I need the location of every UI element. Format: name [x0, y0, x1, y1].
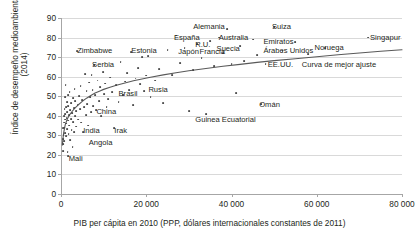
- data-point: [154, 80, 156, 82]
- data-point: [226, 28, 228, 30]
- data-point: [171, 74, 173, 76]
- data-point: [66, 101, 68, 103]
- data-point: [65, 135, 67, 137]
- data-point: [150, 96, 152, 98]
- data-point: [87, 103, 89, 105]
- country-label: India: [83, 127, 99, 136]
- country-label: Francia: [200, 48, 225, 57]
- data-point: [66, 117, 68, 119]
- y-tick-label: 0: [51, 189, 56, 199]
- environmental-performance-scatter-chart: Índice de desempeño medioambiental (2014…: [0, 0, 419, 239]
- data-point: [74, 115, 76, 117]
- data-point: [68, 133, 70, 135]
- y-tick-label: 20: [47, 150, 56, 160]
- data-point: [62, 150, 64, 152]
- country-label: EE.UU.: [268, 61, 293, 70]
- country-label: Australia: [219, 34, 249, 43]
- data-point: [256, 54, 258, 56]
- country-label: Brasil: [119, 90, 138, 99]
- data-point: [235, 92, 237, 94]
- data-point: [265, 63, 267, 65]
- y-tick-label: 90: [47, 13, 56, 23]
- country-label: Singapur: [370, 34, 400, 43]
- x-tick-mark: [402, 194, 403, 197]
- data-point: [69, 91, 71, 93]
- data-point: [89, 96, 91, 98]
- data-point: [81, 122, 83, 124]
- y-tick-label: 30: [47, 130, 56, 140]
- data-point: [102, 71, 104, 73]
- data-point: [162, 102, 164, 104]
- data-point: [91, 74, 93, 76]
- data-point: [367, 37, 369, 39]
- data-point: [143, 90, 145, 92]
- x-tick-label: 80 000: [389, 199, 414, 209]
- data-point: [81, 99, 83, 101]
- data-point: [118, 101, 120, 103]
- data-point: [141, 56, 143, 58]
- y-tick-label: 60: [47, 72, 56, 82]
- data-point: [75, 100, 77, 102]
- data-point: [65, 123, 67, 125]
- data-point: [111, 91, 113, 93]
- data-point: [103, 93, 105, 95]
- data-point: [68, 125, 70, 127]
- x-axis-title: PIB per cápita en 2010 (PPP, dólares int…: [0, 218, 419, 228]
- y-tick-label: 10: [47, 169, 56, 179]
- data-point: [137, 67, 139, 69]
- y-tick-label: 40: [47, 111, 56, 121]
- data-point: [252, 39, 254, 41]
- data-point: [77, 119, 79, 121]
- data-point: [109, 77, 111, 79]
- x-tick-mark: [317, 194, 318, 197]
- data-point: [133, 104, 135, 106]
- x-tick-mark: [146, 194, 147, 197]
- data-point: [167, 49, 169, 51]
- country-label: Serbia: [92, 61, 114, 70]
- data-point: [72, 146, 74, 148]
- x-tick-label: 60 000: [304, 199, 329, 209]
- plot-area: 0102030405060708090 020 00040 00060 0008…: [61, 18, 402, 194]
- country-label: Curva de mejor ajuste: [302, 61, 376, 70]
- data-point: [116, 85, 118, 87]
- data-point: [88, 82, 90, 84]
- data-point: [74, 88, 76, 90]
- data-point: [63, 140, 65, 142]
- data-point: [67, 94, 69, 96]
- data-point: [64, 108, 66, 110]
- data-point: [85, 114, 87, 116]
- y-tick-label: 80: [47, 33, 56, 43]
- data-point: [64, 132, 66, 134]
- data-point: [139, 84, 141, 86]
- country-label: EmiratosÁrabes Unidos: [263, 38, 313, 55]
- country-label: Zimbabwe: [77, 47, 112, 56]
- country-label: Japón: [178, 48, 199, 57]
- data-point: [66, 111, 68, 113]
- x-tick-label: 40 000: [219, 199, 244, 209]
- country-label: Rusia: [148, 86, 167, 95]
- data-point: [90, 111, 92, 113]
- data-point: [71, 130, 73, 132]
- data-point: [92, 105, 94, 107]
- country-label: Angola: [89, 139, 113, 148]
- data-point: [78, 95, 80, 97]
- x-tick-mark: [232, 194, 233, 197]
- data-point: [68, 105, 70, 107]
- data-point: [179, 62, 181, 64]
- data-point: [97, 80, 99, 82]
- data-point: [145, 75, 147, 77]
- data-point: [67, 120, 69, 122]
- data-point: [73, 107, 75, 109]
- data-point: [214, 65, 216, 67]
- x-tick-label: 20 000: [134, 199, 159, 209]
- country-label: Mali: [69, 155, 83, 164]
- data-point: [63, 134, 65, 136]
- data-point: [75, 110, 77, 112]
- data-point: [69, 109, 71, 111]
- country-label: Omán: [259, 101, 280, 110]
- data-point: [92, 89, 94, 91]
- data-point: [62, 143, 64, 145]
- y-axis-title: Índice de desempeño medioambiental (2014…: [11, 0, 30, 159]
- data-point: [188, 110, 190, 112]
- data-point: [80, 86, 82, 88]
